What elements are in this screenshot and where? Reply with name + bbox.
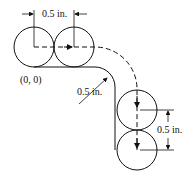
tool-path-diagram: 0.5 in. (0, 0) 0.5 in. 0.5 in. <box>0 0 190 184</box>
top-dimension-label: 0.5 in. <box>42 8 67 19</box>
origin-label: (0, 0) <box>20 74 42 86</box>
radius-label: 0.5 in. <box>77 86 102 97</box>
right-dimension-label: 0.5 in. <box>157 124 182 135</box>
edge-path <box>34 67 115 150</box>
